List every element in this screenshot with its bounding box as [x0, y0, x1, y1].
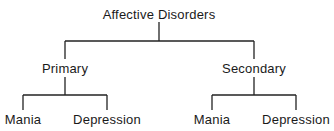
node-root: Affective Disorders	[103, 8, 216, 21]
node-primary: Primary	[42, 62, 88, 75]
node-secondary-depression: Depression	[262, 113, 330, 126]
node-secondary: Secondary	[222, 62, 286, 75]
node-primary-mania: Mania	[5, 113, 41, 126]
affective-disorders-tree: Affective Disorders Primary Secondary Ma…	[0, 0, 334, 131]
node-primary-depression: Depression	[73, 113, 141, 126]
node-secondary-mania: Mania	[194, 113, 230, 126]
